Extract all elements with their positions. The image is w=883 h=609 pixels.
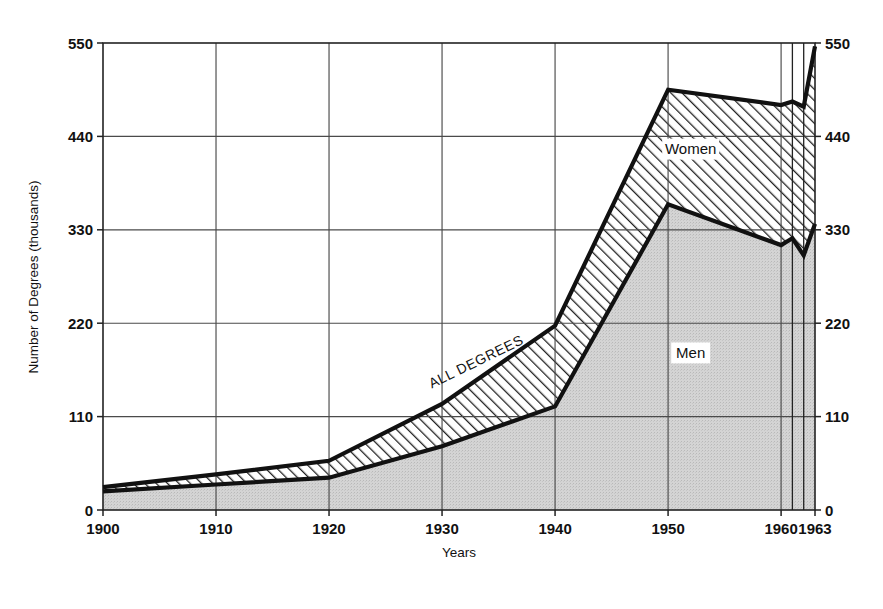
y-axis-title: Number of Degrees (thousands) <box>26 181 41 374</box>
y-tick-label-330: 330 <box>825 221 850 238</box>
y-tick-label-110: 110 <box>825 408 849 425</box>
chart-figure: 19001910192019301940195019601963 0110220… <box>0 0 883 609</box>
y-tick-label-220: 220 <box>68 315 93 332</box>
x-tick-label-1910: 1910 <box>199 520 232 537</box>
annotation-women: Women <box>665 140 716 157</box>
y-tick-label-220: 220 <box>825 315 850 332</box>
x-tick-label-1930: 1930 <box>425 520 458 537</box>
x-tick-label-1960: 1960 <box>764 520 797 537</box>
y-tick-label-0: 0 <box>825 502 833 519</box>
x-tick-label-1950: 1950 <box>651 520 684 537</box>
degrees-stacked-area-chart: 19001910192019301940195019601963 0110220… <box>0 0 883 609</box>
y-tick-label-0: 0 <box>85 502 93 519</box>
x-tick-label-1900: 1900 <box>86 520 119 537</box>
y-tick-label-550: 550 <box>68 35 93 52</box>
x-tick-label-1940: 1940 <box>538 520 571 537</box>
y-tick-label-330: 330 <box>68 221 93 238</box>
y-tick-label-550: 550 <box>825 35 850 52</box>
x-tick-label-1920: 1920 <box>312 520 345 537</box>
y-tick-label-110: 110 <box>69 408 93 425</box>
annotation-men: Men <box>676 344 705 361</box>
y-tick-label-440: 440 <box>825 128 850 145</box>
y-tick-label-440: 440 <box>68 128 93 145</box>
x-axis-title: Years <box>442 545 476 560</box>
x-tick-label-1963: 1963 <box>798 520 831 537</box>
